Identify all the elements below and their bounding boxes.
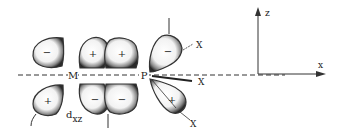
- sign-p-lower: +: [168, 94, 176, 105]
- metal-atom-label: M: [68, 70, 78, 81]
- z-axis-label: z: [265, 8, 270, 18]
- x-axis-arrow-icon: [316, 71, 326, 77]
- x-leader-upper: [183, 44, 193, 50]
- sign-p-upper: −: [164, 46, 172, 57]
- sign-metal-lower-middle-right: −: [118, 94, 126, 105]
- sign-metal-upper-middle-left: +: [89, 48, 97, 59]
- z-axis-arrow-icon: [255, 7, 261, 16]
- sign-metal-upper-middle-right: +: [118, 48, 126, 59]
- substituent-label-lower: X: [190, 119, 197, 129]
- coordinate-axes: z x: [255, 7, 326, 77]
- sign-metal-upper-left: −: [43, 47, 51, 58]
- phosphorus-atom-label: P: [141, 70, 148, 81]
- sign-metal-lower-left: +: [44, 95, 52, 106]
- metal-orbital-label: dxz: [66, 109, 82, 124]
- x-leader-lower: [180, 112, 190, 120]
- substituent-label-upper: X: [196, 40, 203, 50]
- p-x-bond-line: [152, 76, 192, 81]
- x-axis-label: x: [318, 60, 323, 70]
- orbital-diagram: − + + + − − − + M P dxz X X X z x: [0, 0, 340, 136]
- sign-metal-lower-middle-left: −: [91, 94, 99, 105]
- substituent-label-middle: X: [198, 77, 205, 87]
- p-lobe-upper: [150, 18, 183, 72]
